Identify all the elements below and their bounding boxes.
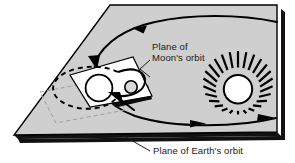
moon-circle — [125, 81, 137, 93]
moon-orbit-plane-label: Plane of Moon's orbit — [152, 42, 205, 63]
moon-orbit-plane-label-line1: Plane of — [152, 42, 205, 53]
earth-circle — [86, 75, 113, 102]
moon-orbit-plane-label-line2: Moon's orbit — [152, 53, 205, 64]
sun-disc — [224, 75, 252, 103]
diagram-canvas: Plane of Moon's orbit Plane of Earth's o… — [0, 0, 295, 163]
diagram-svg — [0, 0, 295, 163]
earth-orbit-plane-label: Plane of Earth's orbit — [153, 146, 243, 157]
